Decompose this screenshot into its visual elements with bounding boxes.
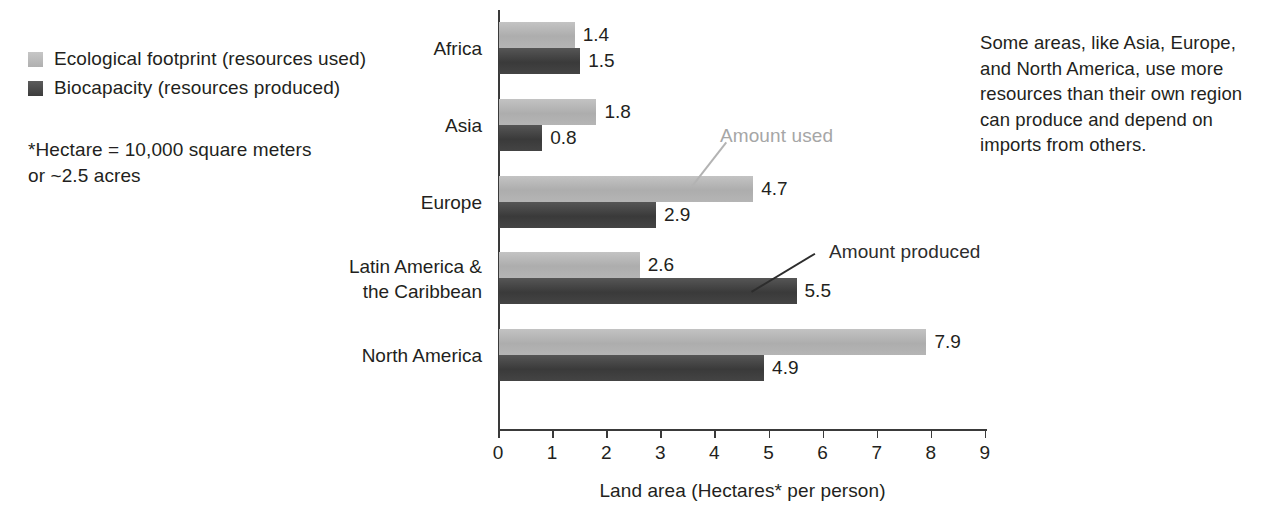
bar-footprint-3 <box>499 252 640 278</box>
chart-canvas: Ecological footprint (resources used) Bi… <box>0 0 1270 511</box>
side-note-line-4: can produce and depend on <box>980 107 1260 133</box>
x-tick-label-8: 8 <box>926 442 937 464</box>
side-note-line-3: resources than their own region <box>980 81 1260 107</box>
bar-footprint-1 <box>499 99 596 125</box>
x-tick-0 <box>498 431 500 438</box>
bar-value-label: 1.8 <box>604 99 630 125</box>
x-axis-title: Land area (Hectares* per person) <box>498 480 987 502</box>
bar-biocapacity-1 <box>499 125 542 151</box>
x-tick-label-2: 2 <box>601 442 612 464</box>
x-tick-label-7: 7 <box>871 442 882 464</box>
legend-item-ecological-footprint: Ecological footprint (resources used) <box>28 48 328 70</box>
bar-value-label: 4.7 <box>761 176 787 202</box>
bar-footprint-2 <box>499 176 753 202</box>
bar-value-label: 4.9 <box>772 355 798 381</box>
bar-biocapacity-4 <box>499 355 764 381</box>
annotation-amount-produced: Amount produced <box>829 241 981 263</box>
bar-footprint-4 <box>499 329 926 355</box>
bar-footprint-0 <box>499 22 575 48</box>
side-note-line-2: and North America, use more <box>980 56 1260 82</box>
x-tick-label-1: 1 <box>547 442 558 464</box>
category-label-line: Europe <box>421 190 482 215</box>
side-note: Some areas, like Asia, Europe, and North… <box>980 30 1260 158</box>
bar-value-label: 5.5 <box>805 278 831 304</box>
category-label-line: North America <box>362 343 482 368</box>
bar-value-label: 1.4 <box>583 22 609 48</box>
x-tick-label-9: 9 <box>980 442 991 464</box>
chart-legend: Ecological footprint (resources used) Bi… <box>28 48 328 106</box>
bar-value-label: 2.6 <box>648 252 674 278</box>
category-label-line: Asia <box>445 113 482 138</box>
legend-swatch-light-icon <box>28 52 43 67</box>
x-axis-line <box>498 429 987 431</box>
bar-biocapacity-2 <box>499 202 656 228</box>
legend-item-biocapacity: Biocapacity (resources produced) <box>28 77 328 99</box>
category-label-line: Africa <box>433 36 482 61</box>
category-label-2: Europe <box>421 190 482 215</box>
category-label-1: Asia <box>445 113 482 138</box>
x-tick-2 <box>606 431 608 438</box>
legend-label-ecological-footprint: Ecological footprint (resources used) <box>54 48 366 70</box>
plot-area: 0123456789 1.41.51.80.84.72.92.65.57.94.… <box>498 10 998 430</box>
x-tick-6 <box>823 431 825 438</box>
annotation-amount-used: Amount used <box>720 125 833 147</box>
x-tick-8 <box>931 431 933 438</box>
legend-label-biocapacity: Biocapacity (resources produced) <box>54 77 340 99</box>
category-label-0: Africa <box>433 36 482 61</box>
footnote: *Hectare = 10,000 square meters or ~2.5 … <box>28 137 348 189</box>
legend-swatch-dark-icon <box>28 81 43 96</box>
bar-value-label: 1.5 <box>588 48 614 74</box>
footnote-line-2: or ~2.5 acres <box>28 163 348 189</box>
x-tick-label-0: 0 <box>493 442 504 464</box>
bar-value-label: 0.8 <box>550 125 576 151</box>
bar-value-label: 7.9 <box>934 329 960 355</box>
x-tick-5 <box>769 431 771 438</box>
x-tick-label-6: 6 <box>817 442 828 464</box>
x-tick-9 <box>985 431 987 438</box>
category-label-3: Latin America &the Caribbean <box>349 254 482 304</box>
category-label-4: North America <box>362 343 482 368</box>
category-label-line: Latin America & <box>349 254 482 279</box>
footnote-line-1: *Hectare = 10,000 square meters <box>28 137 348 163</box>
side-note-line-5: imports from others. <box>980 132 1260 158</box>
x-tick-label-5: 5 <box>763 442 774 464</box>
bar-value-label: 2.9 <box>664 202 690 228</box>
x-tick-4 <box>714 431 716 438</box>
side-note-line-1: Some areas, like Asia, Europe, <box>980 30 1260 56</box>
category-label-line: the Caribbean <box>349 279 482 304</box>
x-tick-1 <box>552 431 554 438</box>
x-tick-3 <box>660 431 662 438</box>
x-tick-label-3: 3 <box>655 442 666 464</box>
bar-biocapacity-0 <box>499 48 580 74</box>
x-tick-label-4: 4 <box>709 442 720 464</box>
x-tick-7 <box>877 431 879 438</box>
